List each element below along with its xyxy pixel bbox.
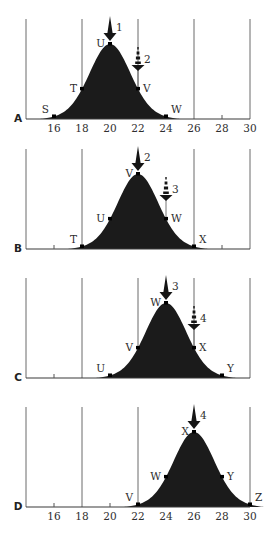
arrow-number-label: 1 [116, 21, 123, 33]
point-label: S [42, 103, 49, 115]
x-tick-label: 18 [75, 510, 88, 522]
arrow-number-label: 4 [200, 312, 207, 324]
panel-a-plot: STUVW12A1618202224262830 [0, 0, 270, 140]
point-label: Y [226, 362, 235, 374]
point-label: V [124, 167, 133, 179]
point-label: U [96, 362, 105, 374]
panel-letter: B [14, 242, 22, 254]
solid-arrow-icon [188, 404, 201, 429]
point-label: X [199, 233, 207, 245]
arrow-number-label: 2 [144, 151, 151, 163]
panel-d: VWXYZ4D1618202224262830 [0, 388, 270, 528]
point-label: V [142, 82, 151, 94]
point-label: Z [255, 491, 262, 503]
point-marker [136, 87, 140, 91]
x-tick-label: 24 [159, 510, 173, 522]
panel-c-plot: UVWXY34C [0, 259, 270, 399]
point-marker [164, 114, 168, 118]
distribution-curve [40, 44, 180, 119]
panel-letter: D [14, 500, 23, 512]
point-label: W [150, 296, 161, 308]
point-marker [136, 502, 140, 506]
point-marker [164, 475, 168, 479]
x-tick-label: 30 [243, 510, 256, 522]
x-tick-label: 22 [131, 510, 144, 522]
point-marker [108, 373, 112, 377]
point-label: V [124, 491, 133, 503]
distribution-curve [68, 174, 208, 249]
x-tick-label: 28 [215, 510, 228, 522]
point-marker [192, 244, 196, 248]
point-marker [108, 42, 112, 46]
arrow-number-label: 2 [144, 53, 151, 65]
panel-b-plot: TUVWX23B [0, 130, 270, 270]
panel-letter: A [14, 112, 23, 124]
point-marker [52, 114, 56, 118]
point-marker [192, 346, 196, 350]
point-marker [192, 430, 196, 434]
point-marker [220, 475, 224, 479]
point-marker [136, 346, 140, 350]
point-label: V [124, 341, 133, 353]
panel-a: STUVW12A1618202224262830 [0, 0, 270, 140]
solid-arrow-icon [132, 146, 145, 171]
arrow-number-label: 4 [200, 409, 207, 421]
point-label: W [171, 212, 182, 224]
point-label: U [96, 37, 105, 49]
panel-d-plot: VWXYZ4D1618202224262830 [0, 388, 270, 528]
point-label: W [150, 470, 161, 482]
distribution-curve [124, 432, 264, 507]
panel-b: TUVWX23B [0, 130, 270, 270]
solid-arrow-icon [104, 16, 117, 41]
arrow-number-label: 3 [172, 183, 179, 195]
point-marker [164, 217, 168, 221]
x-tick-label: 16 [47, 510, 61, 522]
solid-arrow-icon [160, 275, 173, 300]
panel-c: UVWXY34C [0, 259, 270, 399]
point-label: W [171, 103, 182, 115]
point-marker [80, 244, 84, 248]
point-marker [164, 301, 168, 305]
distribution-curve [96, 303, 236, 378]
point-label: T [70, 233, 77, 245]
point-label: X [199, 341, 207, 353]
point-marker [80, 87, 84, 91]
point-label: X [182, 425, 190, 437]
x-tick-label: 20 [103, 510, 116, 522]
point-label: U [96, 212, 105, 224]
point-marker [220, 373, 224, 377]
panel-letter: C [14, 371, 22, 383]
point-marker [248, 502, 252, 506]
dashed-arrow-icon [160, 177, 173, 201]
x-tick-label: 26 [187, 510, 201, 522]
point-label: T [70, 82, 77, 94]
point-marker [136, 172, 140, 176]
point-marker [108, 217, 112, 221]
arrow-number-label: 3 [172, 280, 179, 292]
point-label: Y [226, 470, 235, 482]
